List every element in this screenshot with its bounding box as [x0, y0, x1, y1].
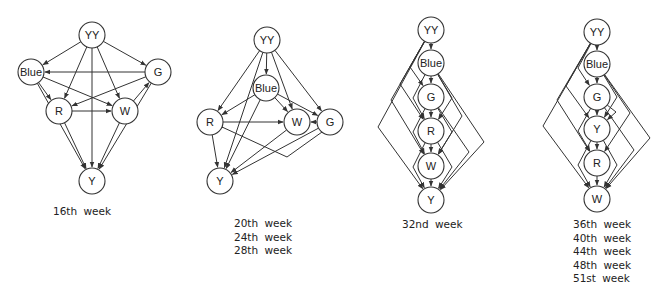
edge-W-to-Y — [98, 123, 119, 169]
node-G: G — [584, 84, 610, 110]
node-Blue: Blue — [18, 59, 44, 85]
node-label: G — [154, 66, 163, 78]
caption-line: 44th week — [573, 245, 631, 259]
edge-G-to-Y — [99, 83, 151, 169]
node-label: W — [292, 116, 303, 128]
node-label: YY — [424, 24, 439, 36]
node-label: YY — [85, 29, 100, 41]
node-W: W — [112, 98, 138, 124]
node-label: W — [426, 160, 437, 172]
node-label: Y — [88, 175, 96, 187]
node-G: G — [418, 84, 444, 110]
node-label: R — [427, 125, 435, 137]
edge-R-to-Y — [65, 123, 86, 169]
edge-Blue-to-W — [605, 75, 650, 189]
node-label: G — [427, 91, 436, 103]
node-label: Blue — [586, 58, 608, 70]
caption-line: 40th week — [573, 232, 631, 246]
node-R: R — [197, 109, 223, 135]
edge-Blue-to-W — [275, 98, 288, 112]
node-label: W — [120, 105, 131, 117]
edge-Blue-to-Y — [438, 74, 484, 190]
caption-week20-28: 20th week 24th week 28th week — [234, 217, 292, 258]
node-R: R — [46, 98, 72, 124]
network-diagram-figure: YYBlueGRWYYYBlueRWGYYYBlueGRWYYYBlueGYRW… — [0, 0, 652, 289]
edge-W-to-G — [133, 83, 149, 101]
node-W: W — [584, 186, 610, 212]
node-YY: YY — [584, 19, 610, 45]
node-R: R — [418, 118, 444, 144]
caption-line: 51st week — [573, 272, 631, 286]
node-label: Y — [216, 175, 224, 187]
node-label: G — [326, 116, 335, 128]
node-Y: Y — [584, 116, 610, 142]
caption-line: 24th week — [234, 231, 292, 245]
edge-R-to-Y — [212, 135, 217, 167]
diagram-canvas: YYBlueGRWYYYBlueRWGYYYBlueGRWYYYBlueGYRW — [0, 0, 652, 289]
caption-week36-51: 36th week 40th week 44th week 48th week … — [573, 218, 631, 286]
edge-Blue-to-Y — [37, 83, 85, 168]
caption-line: 16th week — [53, 205, 111, 219]
node-YY: YY — [79, 22, 105, 48]
node-label: Blue — [20, 66, 42, 78]
edge-YY-to-G — [103, 41, 145, 65]
edge-W-to-Y — [231, 130, 287, 173]
node-YY: YY — [418, 17, 444, 43]
node-label: R — [593, 157, 601, 169]
node-label: G — [593, 91, 602, 103]
caption-line: 28th week — [234, 244, 292, 258]
node-Y: Y — [418, 187, 444, 213]
node-Y: Y — [207, 168, 233, 194]
node-label: Y — [427, 194, 435, 206]
node-W: W — [418, 153, 444, 179]
node-Blue: Blue — [253, 75, 279, 101]
node-G: G — [145, 59, 171, 85]
node-label: Blue — [420, 57, 442, 69]
caption-line: 20th week — [234, 217, 292, 231]
node-G: G — [317, 109, 343, 135]
node-YY: YY — [254, 27, 280, 53]
caption-line: 32nd week — [402, 218, 463, 232]
node-Y: Y — [79, 168, 105, 194]
edge-G-to-W — [604, 108, 634, 188]
node-R: R — [584, 150, 610, 176]
edge-YY-to-W — [97, 47, 119, 98]
caption-line: 48th week — [573, 259, 631, 273]
edge-G-to-R — [72, 77, 146, 106]
edge-G-to-Y — [438, 108, 469, 189]
caption-week32: 32nd week — [402, 218, 463, 232]
node-label: R — [206, 116, 214, 128]
edge-YY-to-Blue — [43, 42, 81, 65]
node-label: W — [592, 193, 603, 205]
node-label: YY — [590, 26, 605, 38]
node-label: Y — [593, 123, 601, 135]
node-Blue: Blue — [418, 50, 444, 76]
node-Blue: Blue — [584, 51, 610, 77]
node-label: YY — [260, 34, 275, 46]
caption-line: 36th week — [573, 218, 631, 232]
nodes-layer: YYBlueGRWYYYBlueRWGYYYBlueGRWYYYBlueGYRW — [18, 17, 610, 213]
caption-week16: 16th week — [53, 205, 111, 219]
node-W: W — [284, 109, 310, 135]
node-label: R — [55, 105, 63, 117]
node-label: Blue — [255, 82, 277, 94]
